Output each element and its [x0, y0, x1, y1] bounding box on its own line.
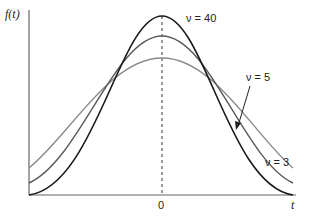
t-distribution-diagram: f(t) t 0 ν = 40 ν = 5 ν = 3	[0, 0, 312, 219]
label-nu-3: ν = 3	[265, 156, 289, 168]
nu5-arrow	[238, 86, 250, 126]
y-axis-label: f(t)	[5, 7, 20, 21]
x-axis-label: t	[291, 198, 295, 212]
label-nu-40: ν = 40	[186, 12, 216, 24]
label-nu-5: ν = 5	[246, 71, 270, 83]
curve-nu-40	[29, 16, 293, 195]
zero-tick-label: 0	[158, 199, 164, 211]
